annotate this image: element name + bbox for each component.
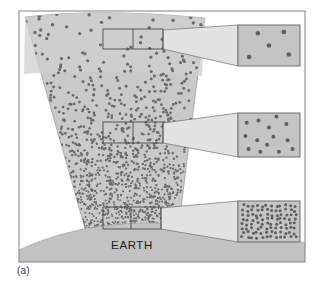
particle-dot [112, 221, 114, 223]
particle-dot [261, 223, 264, 226]
particle-dot [77, 155, 79, 157]
particle-dot [125, 85, 128, 88]
particle-dot [70, 135, 73, 138]
particle-dot [138, 182, 140, 184]
particle-dot [86, 108, 89, 111]
particle-dot [195, 66, 198, 69]
particle-dot [241, 213, 244, 216]
particle-dot [266, 217, 269, 220]
particle-dot [121, 183, 123, 185]
particle-dot [291, 147, 295, 151]
particle-dot [107, 170, 109, 172]
particle-dot [149, 215, 151, 217]
particle-dot [148, 90, 151, 93]
particle-dot [95, 203, 97, 205]
particle-dot [288, 218, 291, 221]
particle-dot [144, 164, 146, 166]
particle-dot [91, 146, 93, 148]
particle-dot [143, 201, 145, 203]
particle-dot [83, 131, 86, 134]
particle-dot [181, 55, 184, 58]
particle-dot [90, 189, 92, 191]
particle-dot [175, 182, 177, 184]
particle-dot [126, 63, 129, 66]
particle-dot [243, 134, 247, 138]
particle-dot [255, 231, 258, 234]
particle-dot [58, 111, 61, 114]
particle-dot [146, 192, 148, 194]
particle-dot [58, 86, 61, 89]
particle-dot [84, 52, 87, 55]
particle-dot [113, 222, 115, 224]
particle-dot [52, 86, 55, 89]
particle-dot [156, 146, 158, 148]
particle-dot [289, 222, 292, 225]
particle-dot [119, 214, 121, 216]
particle-dot [261, 218, 264, 221]
particle-dot [106, 217, 108, 219]
particle-dot [265, 143, 269, 147]
particle-dot [183, 107, 186, 110]
particle-dot [127, 178, 129, 180]
particle-dot [41, 52, 44, 55]
particle-dot [108, 148, 110, 150]
particle-dot [46, 82, 49, 85]
particle-dot [165, 84, 168, 87]
particle-dot [67, 56, 70, 59]
particle-dot [157, 203, 159, 205]
particle-dot [149, 186, 151, 188]
particle-dot [75, 96, 78, 99]
particle-dot [78, 144, 80, 146]
particle-dot [127, 185, 129, 187]
particle-dot [126, 213, 128, 215]
particle-dot [116, 153, 118, 155]
particle-dot [158, 138, 161, 141]
particle-dot [240, 235, 243, 238]
particle-dot [135, 109, 138, 112]
particle-dot [135, 148, 137, 150]
particle-dot [106, 165, 108, 167]
particle-dot [130, 185, 132, 187]
particle-dot [97, 205, 99, 207]
particle-dot [99, 43, 102, 46]
particle-dot [127, 216, 129, 218]
particle-dot [116, 79, 119, 82]
particle-dot [81, 201, 83, 203]
inset-panels [238, 25, 300, 242]
particle-dot [165, 156, 167, 158]
particle-dot [174, 178, 176, 180]
particle-dot [79, 69, 82, 72]
particle-dot [125, 157, 127, 159]
particle-dot [177, 92, 180, 95]
particle-dot [127, 164, 129, 166]
particle-dot [133, 118, 136, 121]
particle-dot [172, 103, 175, 106]
particle-dot [97, 220, 99, 222]
particle-dot [121, 129, 124, 132]
particle-dot [270, 205, 273, 208]
particle-dot [250, 226, 253, 229]
particle-dot [96, 185, 98, 187]
particle-dot [109, 132, 112, 135]
particle-dot [167, 56, 170, 59]
particle-dot [68, 145, 70, 147]
particle-dot [165, 186, 167, 188]
particle-dot [247, 214, 250, 217]
particle-dot [159, 168, 161, 170]
particle-dot [295, 235, 298, 238]
particle-dot [98, 174, 100, 176]
particle-dot [127, 200, 129, 202]
particle-dot [60, 57, 63, 60]
particle-dot [172, 152, 174, 154]
particle-dot [99, 75, 102, 78]
particle-dot [50, 90, 53, 93]
particle-dot [115, 161, 117, 163]
particle-dot [154, 195, 156, 197]
particle-dot [133, 195, 135, 197]
particle-dot [96, 142, 99, 145]
particle-dot [256, 209, 259, 212]
particle-dot [169, 83, 172, 86]
particle-dot [94, 190, 96, 192]
particle-dot [289, 204, 292, 207]
particle-dot [57, 71, 60, 74]
